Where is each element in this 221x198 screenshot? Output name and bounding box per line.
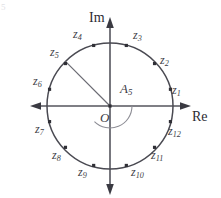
imaginary-axis-label: Im [89,11,105,25]
marker-z12 [169,120,172,123]
figure-canvas: 5 [0,0,221,198]
point-label-z3: z3 [133,29,142,43]
imaginary-axis-top-arrowhead [106,17,114,28]
imaginary-axis-bottom-arrowhead [106,184,114,195]
point-label-subscript: 7 [40,128,44,137]
marker-z4 [92,44,95,47]
point-label-subscript: 1 [177,89,181,98]
marker-origin [108,104,111,107]
point-label-subscript: 8 [57,154,61,163]
point-label-z9: z9 [78,166,87,180]
real-axis-left-arrowhead [30,102,41,110]
point-label-z7: z7 [35,123,44,137]
real-axis-label: Re [192,110,208,124]
marker-z10 [125,164,128,167]
point-label-z4: z4 [73,28,82,42]
marker-z5 [64,62,67,65]
point-label-subscript: 9 [83,171,87,180]
point-label-z2: z2 [160,54,169,68]
point-label-z6: z6 [33,75,42,89]
marker-z6 [48,88,51,91]
angle-label-base: A [120,81,128,96]
marker-z3 [125,44,128,47]
point-label-subscript: 6 [38,80,42,89]
marker-z9 [92,164,95,167]
point-label-subscript: 4 [78,33,82,42]
marker-z8 [64,146,67,149]
point-label-z11: z11 [151,149,163,163]
point-label-z10: z10 [131,166,144,180]
point-label-z1: z1 [172,84,181,98]
real-axis-right-arrowhead [180,102,191,110]
point-label-z8: z8 [52,149,61,163]
point-label-z5: z5 [50,46,59,60]
point-label-subscript: 12 [173,130,181,139]
angle-label-subscript: 5 [128,87,132,97]
radius-line-to-z5 [65,61,110,106]
origin-label: O [100,111,109,124]
point-label-z12: z12 [168,125,181,139]
angle-label: A5 [120,82,132,97]
point-label-subscript: 5 [55,51,59,60]
point-label-subscript: 11 [156,154,164,163]
complex-plane-svg [0,0,221,198]
marker-z7 [48,120,51,123]
point-label-subscript: 3 [138,34,142,43]
point-label-subscript: 2 [165,59,169,68]
marker-z2 [153,62,156,65]
point-label-subscript: 10 [136,171,144,180]
